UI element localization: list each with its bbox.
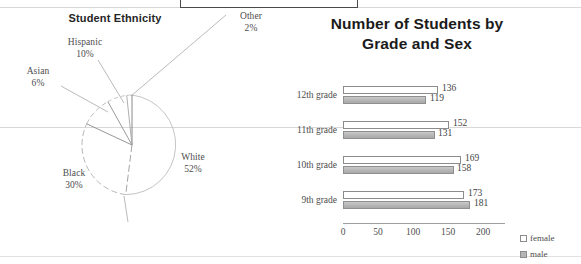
- pie-chart-graphic: [0, 0, 262, 264]
- bar-male-9th-grade: [343, 201, 470, 209]
- x-tick-0: 0: [329, 227, 357, 237]
- bar-female-11th-grade: [343, 121, 449, 129]
- scanned-chart-page: Student Ethnicity: [0, 0, 581, 264]
- pie-label-hispanic: Hispanic 10%: [54, 37, 116, 60]
- bar-value-male-9th-grade: 181: [474, 198, 488, 208]
- bar-male-10th-grade: [343, 166, 454, 174]
- bar-female-12th-grade: [343, 86, 438, 94]
- bar-chart-x-axis-line: [343, 223, 505, 224]
- pie-label-hispanic-name: Hispanic: [68, 37, 103, 47]
- x-tick-200: 200: [469, 227, 497, 237]
- pie-label-other-value: 2%: [245, 23, 258, 33]
- bar-value-female-9th-grade: 173: [468, 188, 482, 198]
- bar-chart-title-line2: Grade and Sex: [362, 35, 472, 52]
- bar-value-female-11th-grade: 152: [453, 118, 467, 128]
- pie-label-white-name: White: [181, 152, 205, 162]
- bar-value-male-12th-grade: 119: [430, 93, 444, 103]
- bar-chart-title: Number of Students by Grade and Sex: [297, 14, 537, 54]
- bar-category-label-11th-grade: 11th grade: [264, 125, 337, 135]
- bar-chart-plot-area: 12th grade 136 119 11th grade 152 131 10…: [262, 82, 581, 232]
- pie-label-asian-value: 6%: [32, 78, 45, 88]
- pie-label-white-value: 52%: [184, 164, 202, 174]
- bar-group-11th-grade: 11th grade 152 131: [262, 117, 581, 147]
- bar-chart-title-line1: Number of Students by: [331, 15, 504, 32]
- x-tick-150: 150: [434, 227, 462, 237]
- bar-male-12th-grade: [343, 96, 426, 104]
- legend-label-male: male: [530, 249, 548, 259]
- pie-label-black-name: Black: [63, 168, 86, 178]
- x-tick-50: 50: [364, 227, 392, 237]
- bar-female-10th-grade: [343, 156, 461, 164]
- pie-label-black: Black 30%: [50, 168, 98, 191]
- bar-value-female-12th-grade: 136: [442, 83, 456, 93]
- pie-label-white: White 52%: [171, 152, 215, 175]
- legend-swatch-male-icon: [520, 251, 527, 258]
- bar-chart-legend: female male: [520, 230, 580, 262]
- bar-category-label-10th-grade: 10th grade: [264, 160, 337, 170]
- legend-item-male: male: [520, 246, 580, 262]
- pie-label-asian: Asian 6%: [14, 66, 62, 89]
- bar-female-9th-grade: [343, 191, 464, 199]
- pie-label-black-value: 30%: [65, 180, 83, 190]
- pie-chart-panel: Student Ethnicity: [0, 0, 262, 264]
- bar-value-male-11th-grade: 131: [438, 128, 452, 138]
- bar-male-11th-grade: [343, 131, 435, 139]
- legend-item-female: female: [520, 230, 580, 246]
- bar-group-10th-grade: 10th grade 169 158: [262, 152, 581, 182]
- bar-category-label-12th-grade: 12th grade: [264, 90, 337, 100]
- bar-group-9th-grade: 9th grade 173 181: [262, 187, 581, 217]
- bar-category-label-9th-grade: 9th grade: [264, 195, 337, 205]
- x-tick-100: 100: [399, 227, 427, 237]
- legend-label-female: female: [530, 233, 554, 243]
- bar-group-12th-grade: 12th grade 136 119: [262, 82, 581, 112]
- bar-value-male-10th-grade: 158: [457, 163, 471, 173]
- pie-label-asian-name: Asian: [27, 66, 50, 76]
- bar-value-female-10th-grade: 169: [465, 153, 479, 163]
- pie-label-hispanic-value: 10%: [76, 49, 94, 59]
- pie-label-other-name: Other: [240, 11, 262, 21]
- bar-chart-panel: Number of Students by Grade and Sex 12th…: [262, 0, 581, 264]
- legend-swatch-female-icon: [520, 235, 527, 242]
